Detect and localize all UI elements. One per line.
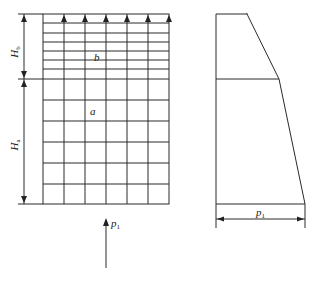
label-ha: Ha	[8, 139, 22, 152]
outflow-arrows	[61, 15, 172, 22]
arrow-up-icon	[145, 15, 151, 22]
arrow-up-icon	[166, 15, 172, 22]
arrow-up-icon	[103, 15, 109, 22]
label-hb: Hb	[8, 46, 22, 59]
zone-a-label: a	[90, 105, 96, 117]
inflow-arrow	[103, 218, 109, 268]
arrow-up-icon	[61, 15, 67, 22]
arrow-up-icon	[82, 15, 88, 22]
pressure-profile	[216, 13, 305, 228]
arrow-left-icon	[217, 217, 224, 222]
inflow-label: p1	[110, 217, 121, 231]
arrow-right-icon	[297, 217, 304, 222]
width-label: p1	[255, 206, 266, 220]
zone-b-label: b	[94, 51, 100, 63]
arrow-up-icon	[103, 218, 109, 226]
arrow-up-icon	[124, 15, 130, 22]
diagram-canvas: Hb Ha b a p1 p1	[0, 0, 314, 286]
